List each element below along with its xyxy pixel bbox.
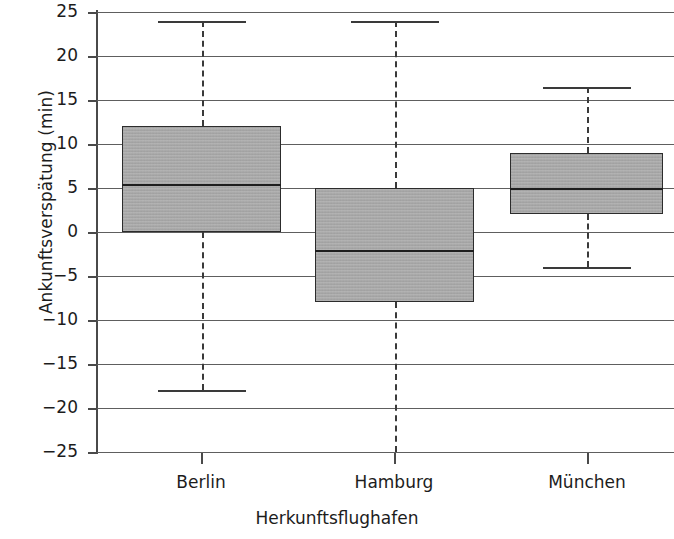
- boxplot-chart: Ankunftsverspätung (min) 2520151050−5−10…: [0, 0, 674, 539]
- lower-whisker-cap: [543, 267, 631, 269]
- y-axis-tick-label: −25: [32, 443, 78, 460]
- box-rect: [510, 153, 663, 215]
- upper-whisker-line: [587, 87, 589, 153]
- upper-whisker-line: [202, 21, 204, 127]
- gridline: [97, 12, 674, 13]
- x-axis-tick-label-münchen: München: [487, 472, 674, 492]
- y-axis-title: Ankunftsverspätung (min): [36, 72, 56, 332]
- median-line: [122, 184, 281, 186]
- x-axis-tick-mark: [394, 453, 396, 464]
- upper-whisker-cap: [543, 87, 631, 89]
- x-axis-tick-mark: [587, 453, 589, 464]
- y-axis-tick-label: 20: [32, 47, 78, 64]
- x-axis-tick-label-berlin: Berlin: [101, 472, 301, 492]
- y-axis-tick-label: 25: [32, 3, 78, 20]
- lower-whisker-line: [395, 302, 397, 452]
- x-axis-tick-mark: [201, 453, 203, 464]
- lower-whisker-cap: [158, 390, 246, 392]
- box-rect: [315, 188, 474, 302]
- x-axis-tick-label-hamburg: Hamburg: [294, 472, 494, 492]
- y-axis-tick-label: −5: [32, 267, 78, 284]
- gridline: [97, 56, 674, 57]
- y-axis-tick-label: 10: [32, 135, 78, 152]
- upper-whisker-line: [395, 21, 397, 188]
- gridline: [97, 364, 674, 365]
- y-axis-tick-label: 0: [32, 223, 78, 240]
- upper-whisker-cap: [351, 21, 439, 23]
- median-line: [510, 188, 663, 190]
- y-axis-tick-label: −10: [32, 311, 78, 328]
- gridline: [97, 408, 674, 409]
- y-axis-tick-label: −20: [32, 399, 78, 416]
- plot-area: [97, 12, 674, 452]
- lower-whisker-line: [202, 232, 204, 390]
- upper-whisker-cap: [158, 21, 246, 23]
- median-line: [315, 250, 474, 252]
- gridline: [97, 320, 674, 321]
- y-axis-tick-label: 5: [32, 179, 78, 196]
- box-rect: [122, 126, 281, 232]
- y-axis-tick-label: −15: [32, 355, 78, 372]
- y-axis-tick-label: 15: [32, 91, 78, 108]
- x-axis-title: Herkunftsflughafen: [0, 508, 674, 528]
- lower-whisker-line: [587, 214, 589, 267]
